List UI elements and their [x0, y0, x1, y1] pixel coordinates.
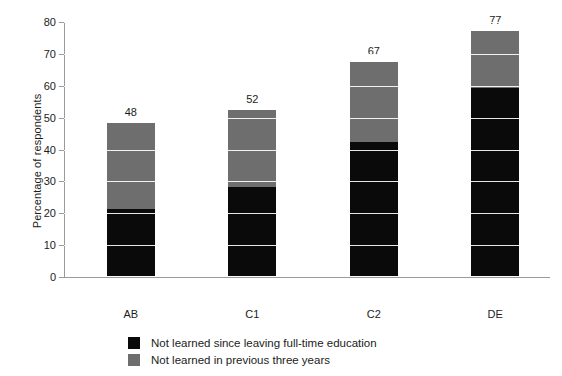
y-axis-tick-label: 40 — [18, 144, 56, 156]
y-axis-tick-mark — [59, 150, 64, 151]
y-axis-tick-label: 10 — [18, 239, 56, 251]
x-axis-tick-label: C1 — [212, 308, 292, 320]
bar-segment[interactable] — [228, 187, 276, 276]
y-axis-tick-label: 30 — [18, 175, 56, 187]
bar-value-label: 67 — [350, 45, 398, 57]
y-axis-tick-mark — [59, 213, 64, 214]
x-axis-tick-label: C2 — [334, 308, 414, 320]
legend-swatch-icon — [128, 337, 140, 349]
y-axis-tick-mark — [59, 54, 64, 55]
bar-value-label: 52 — [228, 93, 276, 105]
y-axis-line — [64, 22, 65, 278]
y-axis-tick-label: 0 — [18, 271, 56, 283]
stacked-bar-chart: Percentage of respondents 01020304050607… — [0, 0, 562, 376]
y-axis-tick-mark — [59, 245, 64, 246]
x-axis-line — [64, 277, 550, 278]
bar-segment[interactable] — [471, 88, 519, 276]
bar-segment[interactable] — [107, 209, 155, 276]
stacked-bar[interactable] — [350, 62, 398, 276]
stacked-bar[interactable] — [107, 123, 155, 276]
legend-swatch-icon — [128, 354, 140, 366]
legend-item-label: Not learned in previous three years — [151, 354, 330, 366]
bar-segment[interactable] — [228, 110, 276, 187]
chart-legend: Not learned since leaving full-time educ… — [128, 334, 377, 368]
y-axis-tick-label: 70 — [18, 48, 56, 60]
y-axis-tick-mark — [59, 118, 64, 119]
y-axis-tick-mark — [59, 22, 64, 23]
stacked-bar[interactable] — [228, 110, 276, 276]
x-axis-tick-label: DE — [455, 308, 535, 320]
y-axis-tick-label: 20 — [18, 207, 56, 219]
x-axis-tick-label: AB — [91, 308, 171, 320]
bar-segment[interactable] — [107, 123, 155, 209]
bar-group — [228, 110, 276, 276]
legend-item: Not learned since leaving full-time educ… — [128, 334, 377, 351]
bar-group — [107, 123, 155, 276]
plot-area: 0102030405060708048AB52C167C277DE — [64, 22, 550, 277]
bar-group — [471, 31, 519, 276]
y-axis-tick-label: 60 — [18, 80, 56, 92]
bar-segment[interactable] — [471, 31, 519, 88]
bar-value-label: 77 — [471, 14, 519, 26]
legend-item-label: Not learned since leaving full-time educ… — [151, 337, 377, 349]
y-axis-tick-mark — [59, 277, 64, 278]
legend-item: Not learned in previous three years — [128, 351, 377, 368]
y-axis-tick-mark — [59, 181, 64, 182]
y-axis-tick-mark — [59, 86, 64, 87]
bar-segment[interactable] — [350, 142, 398, 276]
stacked-bar[interactable] — [471, 31, 519, 276]
bar-segment[interactable] — [350, 62, 398, 142]
bar-value-label: 48 — [107, 106, 155, 118]
bar-group — [350, 62, 398, 276]
y-axis-tick-label: 50 — [18, 112, 56, 124]
y-axis-tick-label: 80 — [18, 16, 56, 28]
